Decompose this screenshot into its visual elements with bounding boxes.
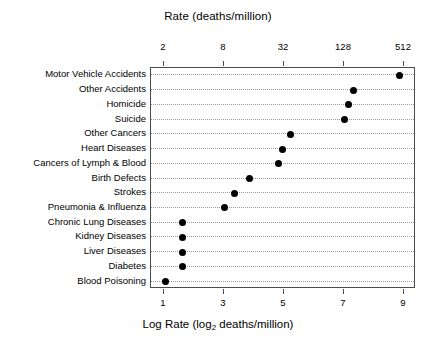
grid-row [151, 74, 414, 75]
category-label: Pneumonia & Influenza [0, 202, 146, 212]
data-point [179, 249, 186, 256]
grid-row [151, 133, 414, 134]
category-label: Chronic Lung Diseases [0, 217, 146, 227]
category-label: Liver Diseases [0, 246, 146, 256]
grid-row [151, 281, 414, 282]
chart-figure: Rate (deaths/million) 2832128512 Motor V… [0, 0, 436, 348]
data-point [179, 234, 186, 241]
category-label: Heart Diseases [0, 143, 146, 153]
top-axis-tick [163, 61, 164, 66]
category-label: Birth Defects [0, 173, 146, 183]
top-axis-tick [283, 61, 284, 66]
bottom-axis-tick-label: 7 [318, 297, 368, 308]
top-axis-tick-label: 8 [198, 41, 248, 52]
grid-row [151, 207, 414, 208]
bottom-axis-tick-label: 1 [138, 297, 188, 308]
grid-row [151, 251, 414, 252]
category-label: Suicide [0, 114, 146, 124]
bottom-axis-tick [283, 289, 284, 294]
bottom-axis-tick [403, 289, 404, 294]
top-axis-tick-label: 32 [258, 41, 308, 52]
category-label: Motor Vehicle Accidents [0, 69, 146, 79]
grid-row [151, 89, 414, 90]
grid-row [151, 266, 414, 267]
data-point [345, 101, 352, 108]
bottom-axis-title-subscript: 2 [212, 323, 216, 332]
bottom-axis-title-prefix: Log Rate (log [143, 318, 212, 330]
category-label: Diabetes [0, 261, 146, 271]
top-axis-tick [403, 61, 404, 66]
data-point [231, 190, 238, 197]
data-point [246, 175, 253, 182]
top-axis-tick [223, 61, 224, 66]
top-axis-tick-label: 128 [318, 41, 368, 52]
data-point [221, 204, 228, 211]
bottom-axis-tick [343, 289, 344, 294]
grid-row [151, 119, 414, 120]
plot-area [150, 67, 415, 288]
category-label: Blood Poisoning [0, 276, 146, 286]
bottom-axis-tick-label: 3 [198, 297, 248, 308]
grid-row [151, 192, 414, 193]
grid-row [151, 222, 414, 223]
bottom-axis-title: Log Rate (log2 deaths/million) [0, 318, 436, 330]
category-label: Homicide [0, 99, 146, 109]
bottom-axis-tick-label: 9 [378, 297, 428, 308]
category-label: Strokes [0, 187, 146, 197]
data-point [279, 146, 286, 153]
data-point [287, 131, 294, 138]
category-label: Other Cancers [0, 128, 146, 138]
grid-row [151, 236, 414, 237]
top-axis-tick-label: 512 [378, 41, 428, 52]
top-axis-title: Rate (deaths/million) [0, 10, 436, 22]
data-point [341, 116, 348, 123]
top-axis-tick-label: 2 [138, 41, 188, 52]
top-axis-tick [343, 61, 344, 66]
grid-row [151, 178, 414, 179]
data-point [179, 263, 186, 270]
bottom-axis-tick-label: 5 [258, 297, 308, 308]
bottom-axis-title-suffix: deaths/million) [216, 318, 293, 330]
grid-row [151, 163, 414, 164]
category-label: Other Accidents [0, 84, 146, 94]
data-point [396, 72, 403, 79]
data-point [162, 278, 169, 285]
bottom-axis-tick [163, 289, 164, 294]
grid-row [151, 104, 414, 105]
data-point [275, 160, 282, 167]
bottom-axis-tick [223, 289, 224, 294]
category-label: Kidney Diseases [0, 231, 146, 241]
data-point [179, 219, 186, 226]
category-label: Cancers of Lymph & Blood [0, 158, 146, 168]
data-point [350, 87, 357, 94]
